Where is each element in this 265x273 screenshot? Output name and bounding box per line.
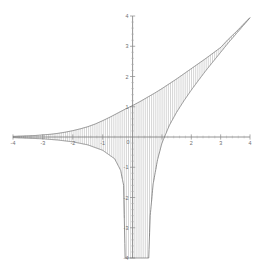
y-axis-tick-label: -2: [124, 195, 129, 201]
y-axis-tick-label: 3: [125, 43, 128, 49]
shaded-region-hatching: [13, 19, 248, 258]
y-axis-tick-label: 2: [125, 74, 128, 80]
plot-figure: -4-3-2-10234-4-3-2-11234: [0, 0, 265, 273]
y-axis-tick-label: 1: [125, 104, 128, 110]
plot-canvas: -4-3-2-10234-4-3-2-11234: [0, 0, 265, 273]
y-axis-tick-label: -3: [124, 225, 129, 231]
x-axis-tick-label: 4: [249, 140, 252, 146]
x-axis-tick-label: 2: [190, 140, 193, 146]
y-axis-tick-label: -1: [124, 164, 129, 170]
x-axis-tick-label: 3: [219, 140, 222, 146]
upper-curve: [13, 18, 250, 137]
x-axis-tick-label: -4: [11, 140, 16, 146]
x-axis-tick-label: -3: [41, 140, 46, 146]
x-axis-tick-label: 0: [126, 139, 129, 145]
y-axis-tick-label: 4: [125, 13, 128, 19]
x-axis-tick-label: -1: [100, 140, 105, 146]
y-axis-tick-label: -4: [124, 255, 129, 261]
x-axis-tick-label: -2: [70, 140, 75, 146]
